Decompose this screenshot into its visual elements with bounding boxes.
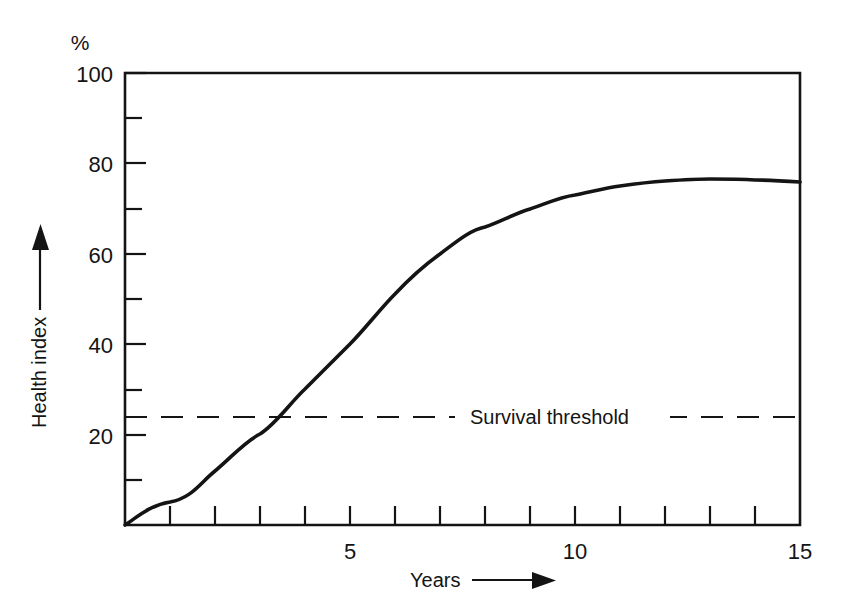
y-tick-label-100: 100 — [76, 62, 113, 87]
y-axis-title-group: Health index — [28, 224, 50, 428]
x-ticks — [170, 506, 755, 525]
y-axis-arrow-head-icon — [32, 224, 49, 250]
y-major-ticks — [125, 73, 146, 435]
health-index-curve — [125, 179, 800, 525]
chart-figure: 100 80 60 40 20 % 5 10 15 Survival thres… — [0, 0, 852, 607]
y-tick-label-80: 80 — [89, 152, 113, 177]
y-tick-label-20: 20 — [89, 424, 113, 449]
y-tick-label-40: 40 — [89, 333, 113, 358]
y-minor-ticks — [125, 118, 142, 480]
chart-svg: 100 80 60 40 20 % 5 10 15 Survival thres… — [0, 0, 852, 607]
survival-threshold-label: Survival threshold — [470, 406, 629, 428]
percent-unit-label: % — [71, 31, 90, 54]
y-axis-title: Health index — [28, 317, 50, 428]
x-axis-title-group: Years — [410, 569, 556, 591]
x-axis-arrow-head-icon — [532, 572, 556, 589]
y-tick-label-60: 60 — [89, 243, 113, 268]
axis-frame-path — [125, 73, 800, 525]
x-tick-label-5: 5 — [344, 539, 356, 564]
x-tick-label-15: 15 — [788, 539, 812, 564]
plot-frame — [125, 73, 800, 525]
x-axis-title: Years — [410, 569, 460, 591]
x-tick-label-10: 10 — [563, 539, 587, 564]
